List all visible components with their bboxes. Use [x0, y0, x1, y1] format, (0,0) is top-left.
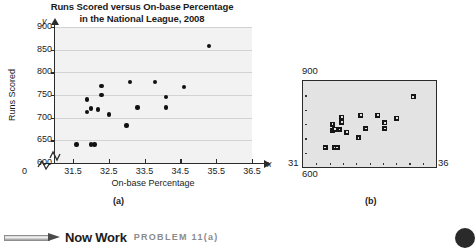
x-tick-mark — [252, 159, 253, 164]
x-axis-variable-label: x — [267, 159, 272, 169]
calc-y-tick — [305, 110, 307, 111]
data-point — [92, 142, 96, 146]
x-tick-label: 32.5 — [94, 166, 124, 176]
calc-y-tick — [305, 153, 307, 154]
y-tick-labels: 600650700750800850900 — [22, 0, 52, 215]
calc-x-tick — [409, 163, 410, 165]
calc-data-point — [339, 115, 344, 120]
y-tick-mark — [51, 50, 55, 51]
x-axis-line — [44, 163, 266, 164]
panel-a-caption: (a) — [113, 196, 124, 206]
chart-title-line-2: in the National League, 2008 — [34, 13, 250, 25]
calc-data-point — [358, 113, 363, 118]
gridline — [55, 95, 252, 96]
y-tick-label: 850 — [26, 44, 52, 54]
y-tick-mark — [51, 95, 55, 96]
calc-x-tick — [370, 163, 371, 165]
chart-title: Runs Scored versus On-base Percentage in… — [34, 1, 250, 24]
y-tick-label: 750 — [26, 89, 52, 99]
gridline — [55, 50, 252, 51]
y-axis-title: Runs Scored — [7, 60, 17, 130]
y-tick-label: 600 — [26, 157, 52, 167]
calc-x-tick — [316, 163, 317, 165]
pencil-icon — [4, 233, 64, 242]
calc-y-tick — [305, 124, 307, 125]
calc-ymax-label: 900 — [302, 65, 318, 76]
y-tick-label: 700 — [26, 112, 52, 122]
calc-data-point — [382, 120, 387, 125]
gridline — [55, 72, 252, 73]
origin-label: 0 — [22, 166, 27, 176]
calc-data-point — [339, 120, 344, 125]
y-tick-mark — [51, 163, 55, 164]
data-point — [124, 123, 128, 127]
calc-data-point — [330, 122, 335, 127]
calc-x-tick — [356, 163, 357, 165]
calc-data-point — [344, 130, 349, 135]
data-point — [89, 106, 93, 110]
calc-x-tick — [396, 163, 397, 165]
calc-x-tick — [383, 163, 384, 165]
data-point — [107, 112, 111, 116]
gridline — [55, 118, 252, 119]
calc-xmin-label: 31 — [288, 157, 299, 168]
x-tick-mark — [73, 159, 74, 164]
x-tick-label: 34.5 — [165, 166, 195, 176]
x-tick-label: 35.5 — [201, 166, 231, 176]
x-tick-mark — [145, 159, 146, 164]
calc-data-point — [356, 135, 361, 140]
y-tick-mark — [51, 72, 55, 73]
x-tick-label: 33.5 — [130, 166, 160, 176]
y-tick-label: 800 — [26, 66, 52, 76]
data-point — [164, 105, 168, 109]
gridline — [55, 27, 252, 28]
data-point — [96, 107, 100, 111]
calc-ymin-label: 600 — [302, 168, 318, 179]
calc-data-point — [337, 127, 342, 132]
gridline — [55, 140, 252, 141]
x-tick-mark — [109, 159, 110, 164]
data-point — [99, 93, 103, 97]
x-tick-mark — [216, 159, 217, 164]
panel-b-calculator-view: 900 31 36 600 — [288, 60, 467, 188]
x-axis-title: On-base Percentage — [78, 178, 228, 188]
calc-data-point — [375, 113, 380, 118]
calc-y-tick — [305, 138, 307, 139]
data-point — [74, 142, 78, 146]
calc-data-point — [323, 145, 328, 150]
calc-y-tick — [305, 95, 307, 96]
panel-a-scatterplot: Runs Scored versus On-base Percentage in… — [0, 0, 290, 215]
calculator-screen — [302, 80, 437, 168]
y-tick-mark — [51, 27, 55, 28]
y-tick-mark — [51, 118, 55, 119]
page-corner-decoration — [455, 228, 475, 248]
now-work-label: Now Work — [65, 230, 127, 245]
calc-data-point — [382, 126, 387, 131]
data-point — [135, 105, 139, 109]
y-axis-line — [54, 24, 55, 163]
now-work-problem-reference[interactable]: PROBLEM 11(a) — [134, 232, 219, 242]
calc-data-point — [335, 145, 340, 150]
calc-data-point — [394, 116, 399, 121]
panel-b-caption: (b) — [365, 196, 377, 206]
y-tick-label: 650 — [26, 134, 52, 144]
calc-xmax-label: 36 — [438, 157, 449, 168]
plot-area — [55, 27, 252, 163]
x-tick-label: 31.5 — [58, 166, 88, 176]
calc-x-tick — [343, 163, 344, 165]
calc-x-tick — [423, 163, 424, 165]
y-tick-label: 900 — [26, 21, 52, 31]
x-tick-mark — [180, 159, 181, 164]
calc-data-point — [363, 126, 368, 131]
x-tick-label: 36.5 — [237, 166, 267, 176]
calc-data-point — [411, 94, 416, 99]
y-tick-mark — [51, 140, 55, 141]
now-work-banner: Now Work PROBLEM 11(a) — [4, 227, 219, 247]
calc-x-tick — [330, 163, 331, 165]
data-point — [99, 84, 103, 88]
chart-title-line-1: Runs Scored versus On-base Percentage — [34, 1, 250, 13]
